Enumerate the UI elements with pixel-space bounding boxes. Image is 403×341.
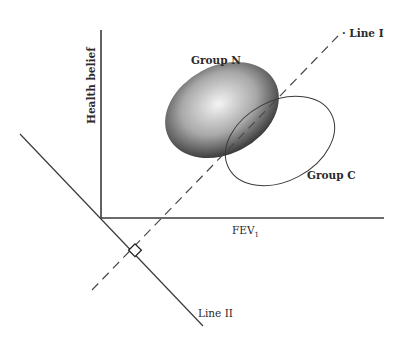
right-angle-marker: [129, 244, 142, 257]
x-axis-label-text: FEV: [232, 224, 255, 236]
y-axis-label: Health belief: [85, 47, 97, 124]
group-c-label: Group C: [307, 169, 356, 181]
x-axis-label: FEV1: [232, 224, 259, 239]
x-axis-subscript: 1: [255, 231, 259, 239]
group-n-label: Group N: [191, 54, 241, 66]
line-ii: [20, 134, 203, 326]
line-ii-label: Line II: [198, 307, 233, 319]
line-i-text: Line I: [349, 27, 383, 39]
line-i-label: · Line I: [342, 27, 384, 39]
